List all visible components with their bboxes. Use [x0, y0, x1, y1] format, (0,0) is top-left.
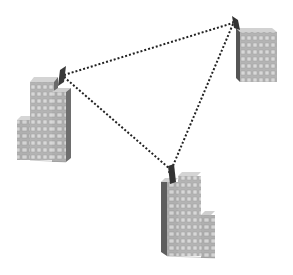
- link-right-bottom: [172, 24, 233, 168]
- building-bottom: [161, 164, 215, 258]
- satellite-dish-icon: [232, 16, 240, 30]
- satellite-dish-icon: [58, 66, 66, 86]
- wireless-links: [64, 23, 233, 169]
- building-right: [232, 16, 277, 82]
- link-left-right: [64, 23, 233, 75]
- network-diagram: [0, 0, 293, 275]
- link-left-bottom: [64, 77, 170, 169]
- building-left: [17, 66, 71, 162]
